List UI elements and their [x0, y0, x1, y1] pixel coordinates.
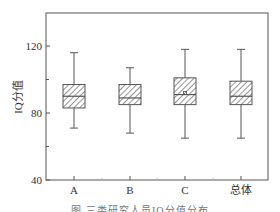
box-3: [174, 49, 196, 138]
y-axis-label: IQ分值: [12, 80, 24, 114]
y-tick-label: 120: [26, 40, 43, 52]
boxplot-series: [63, 49, 252, 138]
x-tick-label: A: [70, 184, 78, 196]
x-axis: ABC总体: [70, 176, 252, 196]
x-tick-label: B: [126, 184, 133, 196]
x-tick-label: C: [181, 184, 188, 196]
box-4: [230, 49, 252, 138]
y-tick-label: 80: [31, 107, 43, 119]
box-2: [119, 68, 141, 133]
y-tick-label: 40: [31, 174, 43, 186]
figure-caption: 图 三类研究人员IQ分值分布: [0, 202, 280, 212]
iqr-box: [230, 81, 252, 104]
box-1: [63, 53, 85, 128]
x-tick-label: 总体: [230, 183, 252, 196]
iqr-box: [119, 85, 141, 105]
boxplot-chart: 4080120 ABC总体 IQ分值: [0, 0, 280, 212]
